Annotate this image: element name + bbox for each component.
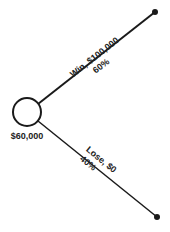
- root-value-label: $60,000: [11, 131, 44, 141]
- win-end-node: [152, 9, 158, 15]
- decision-tree-diagram: $60,000 Win, $100,000 60% Lose, $0 40%: [0, 0, 170, 232]
- root-chance-node: [13, 98, 41, 126]
- lose-end-node: [154, 214, 160, 220]
- lose-branch-line: [38, 121, 157, 217]
